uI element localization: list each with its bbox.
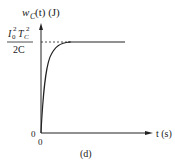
denominator: 2C (13, 44, 25, 55)
num-0: 0 (12, 33, 16, 41)
ylabel-rest: (t) (J) (35, 6, 60, 19)
ylabel-w: w (22, 6, 30, 18)
x-axis-arrow-icon (145, 131, 153, 135)
num-2b: 2 (26, 25, 30, 33)
caption: (d) (80, 148, 92, 160)
num-2a: 2 (13, 25, 17, 33)
energy-chart: w C (t) (J) I 0 2 T C 2 2C 0 0 t (s) (d) (0, 0, 175, 168)
energy-curve (41, 42, 70, 133)
y-axis-arrow-icon (39, 23, 43, 30)
origin-y-label: 0 (31, 129, 36, 139)
xlabel: t (s) (156, 128, 172, 140)
origin-x-label: 0 (38, 137, 43, 147)
num-C: C (24, 33, 29, 41)
